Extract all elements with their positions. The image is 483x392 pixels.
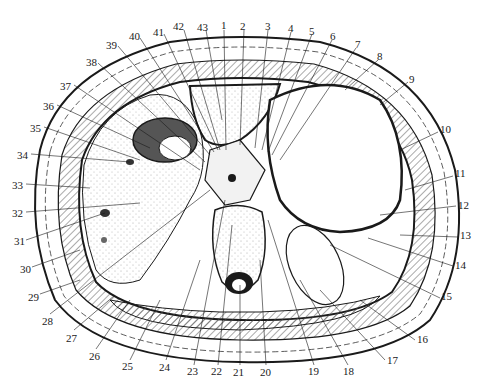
- label-25: 25: [122, 361, 133, 372]
- label-3: 3: [265, 21, 271, 32]
- label-38: 38: [86, 57, 97, 68]
- label-35: 35: [30, 123, 41, 134]
- label-18: 18: [343, 366, 354, 377]
- label-15: 15: [441, 291, 452, 302]
- label-29: 29: [28, 292, 39, 303]
- label-22: 22: [211, 366, 222, 377]
- label-1: 1: [221, 20, 227, 31]
- small-vessel-29: [101, 237, 107, 243]
- label-10: 10: [440, 124, 451, 135]
- label-41: 41: [153, 27, 164, 38]
- label-7: 7: [355, 39, 361, 50]
- label-40: 40: [129, 31, 140, 42]
- label-43: 43: [197, 22, 208, 33]
- label-13: 13: [460, 230, 471, 241]
- label-33: 33: [12, 180, 23, 191]
- label-23: 23: [187, 366, 198, 377]
- label-11: 11: [455, 168, 466, 179]
- label-14: 14: [455, 260, 466, 271]
- label-26: 26: [89, 351, 100, 362]
- label-34: 34: [17, 150, 28, 161]
- label-37: 37: [60, 81, 71, 92]
- label-32: 32: [12, 208, 23, 219]
- anatomical-cross-section-figure: 1 2 3 4 5 6 7 8 9 10 11 12 13 14 15 16 1…: [0, 0, 483, 392]
- label-4: 4: [288, 23, 294, 34]
- label-5: 5: [309, 26, 315, 37]
- central-vessel: [228, 174, 236, 182]
- label-2: 2: [240, 21, 246, 32]
- label-20: 20: [260, 367, 271, 378]
- label-19: 19: [308, 366, 319, 377]
- label-31: 31: [14, 236, 25, 247]
- label-36: 36: [43, 101, 54, 112]
- vessel-lumen: [159, 136, 191, 160]
- label-30: 30: [20, 264, 31, 275]
- label-24: 24: [159, 362, 170, 373]
- label-6: 6: [330, 31, 336, 42]
- label-12: 12: [458, 200, 469, 211]
- stomach: [268, 85, 402, 232]
- label-27: 27: [66, 333, 77, 344]
- label-21: 21: [233, 367, 244, 378]
- label-17: 17: [387, 355, 398, 366]
- label-9: 9: [409, 74, 415, 85]
- label-28: 28: [42, 316, 53, 327]
- label-42: 42: [173, 21, 184, 32]
- label-39: 39: [106, 40, 117, 51]
- label-16: 16: [417, 334, 428, 345]
- spinal-cord: [232, 279, 246, 291]
- label-8: 8: [377, 51, 383, 62]
